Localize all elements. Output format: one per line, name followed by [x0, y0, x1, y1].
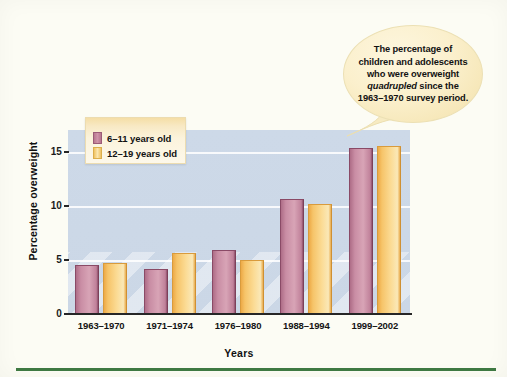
y-tick-label-15: 15 [38, 146, 62, 157]
bar [172, 253, 196, 314]
x-tick-label: 1999–2002 [335, 320, 415, 331]
legend-item-12-19: 12–19 years old [93, 146, 177, 160]
y-tick-label-5: 5 [38, 254, 62, 265]
legend-swatch-icon-6-11 [93, 132, 102, 144]
legend-label-12-19: 12–19 years old [107, 148, 177, 159]
callout-emphasis: quadrupled [367, 81, 417, 91]
bar [349, 148, 373, 314]
legend-swatch-icon-12-19 [93, 147, 102, 159]
bar [240, 260, 264, 314]
y-tick-mark-0 [64, 313, 69, 315]
bar [377, 146, 401, 314]
bar-group [349, 130, 401, 314]
bar [308, 204, 332, 314]
bottom-rule [16, 368, 496, 371]
y-tick-mark-15 [64, 151, 69, 153]
y-tick-mark-10 [64, 205, 69, 207]
bar [280, 199, 304, 314]
bar [212, 250, 236, 314]
annotation-callout: The percentage of children and adolescen… [333, 22, 485, 138]
callout-text: The percentage of children and adolescen… [344, 43, 482, 104]
chart-figure: 051015 1963–19701971–19741976–19801988–1… [0, 0, 507, 377]
bar [144, 269, 168, 314]
x-axis-line [66, 313, 412, 315]
y-axis-tick-labels: 051015 [36, 0, 62, 377]
y-tick-label-10: 10 [38, 200, 62, 211]
y-tick-label-0: 0 [38, 308, 62, 319]
bar [103, 263, 127, 314]
bar-group [212, 130, 264, 314]
callout-bubble: The percentage of children and adolescen… [343, 25, 483, 123]
bar-group [280, 130, 332, 314]
y-tick-mark-5 [64, 259, 69, 261]
legend-label-6-11: 6–11 years old [107, 133, 171, 144]
x-axis-title: Years [68, 347, 410, 359]
bar [75, 265, 99, 314]
legend-item-6-11: 6–11 years old [93, 131, 171, 145]
chart-legend: 6–11 years old 12–19 years old [85, 117, 186, 164]
y-axis-title: Percentage overweight [27, 126, 39, 276]
